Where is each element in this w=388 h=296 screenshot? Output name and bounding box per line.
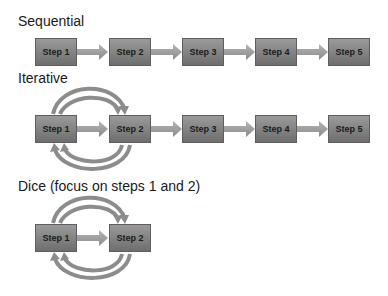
iterative-step-4: Step 4 — [255, 115, 297, 143]
section-title-iterative: Iterative — [18, 70, 68, 86]
section-title-sequential: Sequential — [18, 13, 84, 29]
sequential-step-5: Step 5 — [328, 38, 370, 66]
iterative-step-3: Step 3 — [182, 115, 224, 143]
sequential-step-2: Step 2 — [109, 38, 151, 66]
sequential-step-1: Step 1 — [35, 38, 77, 66]
iterative-step-1: Step 1 — [35, 115, 77, 143]
dice-step-1: Step 1 — [35, 224, 77, 252]
sequential-step-4: Step 4 — [255, 38, 297, 66]
iterative-step-2: Step 2 — [109, 115, 151, 143]
dice-arrows — [77, 230, 108, 246]
section-title-dice: Dice (focus on steps 1 and 2) — [18, 178, 200, 194]
sequential-step-3: Step 3 — [182, 38, 224, 66]
dice-step-2: Step 2 — [109, 224, 151, 252]
iterative-step-5: Step 5 — [328, 115, 370, 143]
